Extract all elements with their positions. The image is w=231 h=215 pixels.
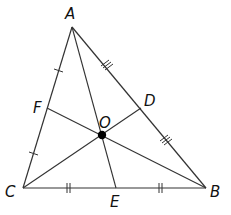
label-c: C	[5, 183, 16, 201]
median-cd	[23, 108, 141, 188]
centroid-point-o	[98, 131, 106, 139]
side-ab	[72, 27, 206, 188]
label-a: A	[64, 5, 75, 23]
label-f: F	[33, 99, 42, 117]
side-ca	[23, 27, 72, 188]
label-o: O	[99, 114, 111, 132]
tick-mark-db	[160, 135, 172, 145]
triangle-medians-diagram: A B C D E F O	[0, 0, 231, 215]
median-ae	[72, 27, 116, 188]
label-e: E	[110, 193, 120, 211]
tick-mark-ad	[101, 60, 113, 70]
median-bf	[47, 108, 206, 188]
label-b: B	[210, 183, 220, 201]
label-d: D	[144, 92, 156, 110]
